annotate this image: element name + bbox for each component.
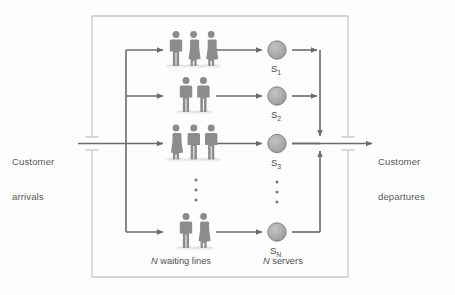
waiting-lines-n: N xyxy=(151,256,158,266)
person-female xyxy=(171,125,183,160)
servers-caption: N servers xyxy=(263,256,303,266)
server-node-n xyxy=(268,223,286,241)
person-male xyxy=(205,125,217,160)
customer-departures-label: Customer departures xyxy=(378,133,425,225)
person-male xyxy=(188,125,200,160)
server-exit-arrows xyxy=(292,50,320,232)
server-label-1: S1 xyxy=(271,63,281,76)
waiting-lines-caption: N waiting lines xyxy=(151,256,211,266)
server-node-1 xyxy=(268,41,286,59)
server-node-2 xyxy=(268,87,286,105)
person-female xyxy=(189,31,201,66)
waiting-line-figures xyxy=(166,31,221,251)
queueing-diagram-figure: Customer arrivals Customer departures S1… xyxy=(0,0,455,295)
queue-to-server-arrows xyxy=(216,50,262,232)
person-male xyxy=(197,77,209,112)
arrivals-line-1: Customer xyxy=(12,156,54,168)
queue-n-people xyxy=(176,213,214,251)
queue-1-people xyxy=(166,31,221,69)
departures-line-1: Customer xyxy=(378,156,425,168)
server-label-2: S2 xyxy=(271,109,281,122)
servers-text: servers xyxy=(270,256,303,266)
server-label-3: S3 xyxy=(271,157,281,170)
queue-2-people xyxy=(176,77,213,115)
person-female xyxy=(206,31,218,66)
servers-n: N xyxy=(263,256,270,266)
server-node-3 xyxy=(268,134,286,152)
person-female xyxy=(199,213,211,248)
person-male xyxy=(180,77,192,112)
waiting-lines-text: waiting lines xyxy=(158,256,211,266)
person-male xyxy=(180,213,192,248)
queue-3-people xyxy=(166,125,221,163)
departures-line-2: departures xyxy=(378,191,425,203)
servers-ellipsis-dots xyxy=(276,181,279,204)
person-male xyxy=(170,31,182,66)
arrivals-line-2: arrivals xyxy=(12,191,54,203)
customer-arrivals-label: Customer arrivals xyxy=(12,133,54,225)
queues-ellipsis-dots xyxy=(195,179,198,202)
queue-feeder-arrows xyxy=(126,50,163,232)
